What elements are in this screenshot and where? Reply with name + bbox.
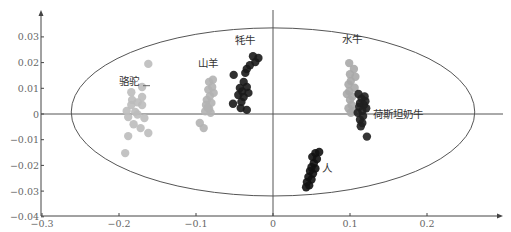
group-label: 牦牛 (235, 34, 255, 46)
series-points (302, 148, 324, 192)
data-point (363, 132, 371, 140)
data-point (127, 88, 135, 96)
x-tick-label: −0.1 (184, 218, 207, 229)
data-point (200, 124, 208, 132)
group-label: 山羊 (198, 57, 218, 69)
data-point (357, 122, 365, 130)
data-point (208, 83, 216, 91)
data-point (140, 114, 148, 122)
x-tick-label: −0.2 (107, 218, 130, 229)
y-tick-label: 0.01 (18, 83, 39, 94)
data-points (121, 52, 371, 191)
y-axis-arrow-icon (39, 10, 44, 16)
data-point (124, 132, 132, 140)
x-tick-label: 0 (270, 218, 276, 229)
y-tick-label: 0.03 (18, 31, 39, 42)
data-point (144, 60, 152, 68)
y-tick-label: −0.03 (10, 186, 39, 197)
y-tick-label: −0.02 (10, 160, 39, 171)
data-point (121, 149, 129, 157)
group-label: 水牛 (342, 33, 362, 45)
pca-scatter-chart: 0.030.020.010−0.01−0.02−0.03−0.04−0.3−0.… (0, 0, 511, 232)
data-point (244, 89, 252, 97)
data-point (138, 83, 146, 91)
series-points (229, 52, 263, 114)
x-tick-label: 0.1 (342, 218, 357, 229)
x-tick-label: 0.2 (419, 218, 434, 229)
group-labels: 骆驼山羊牦牛水牛荷斯坦奶牛人 (119, 33, 423, 174)
data-point (302, 183, 310, 191)
group-label: 骆驼 (119, 75, 140, 87)
data-point (243, 106, 251, 114)
data-point (123, 107, 131, 115)
y-tick-label: 0 (33, 109, 39, 120)
x-tick-label: −0.3 (30, 218, 53, 229)
y-tick-label: 0.02 (18, 57, 39, 68)
x-axis-arrow-icon (497, 214, 503, 219)
data-point (241, 69, 249, 77)
group-label: 荷斯坦奶牛 (373, 108, 423, 120)
data-point (133, 98, 141, 106)
series-points (196, 76, 218, 133)
data-point (144, 129, 152, 137)
data-point (229, 100, 237, 108)
series-points (354, 90, 372, 141)
data-point (136, 124, 144, 132)
data-point (230, 71, 238, 79)
data-point (203, 103, 211, 111)
group-label: 人 (322, 162, 333, 174)
y-tick-label: −0.01 (10, 134, 39, 145)
